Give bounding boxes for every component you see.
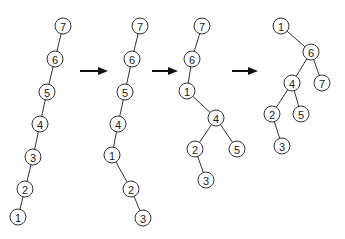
tree-transformation-diagram: 7654321765412376142531647253: [0, 0, 345, 239]
tree-node-5: 5: [117, 84, 133, 100]
node-label: 7: [137, 21, 143, 33]
node-label: 5: [234, 144, 240, 156]
node-label: 4: [115, 119, 121, 131]
arrows-layer: [80, 67, 258, 75]
tree-node-3: 3: [25, 149, 41, 165]
node-label: 3: [203, 175, 209, 187]
node-label: 5: [44, 87, 50, 99]
node-label: 1: [184, 86, 190, 98]
tree-node-5: 5: [39, 84, 55, 100]
tree-node-2: 2: [264, 106, 280, 122]
right-arrow-icon: [232, 67, 258, 75]
tree-node-4: 4: [110, 116, 126, 132]
tree-node-6: 6: [303, 44, 319, 60]
node-label: 4: [289, 78, 295, 90]
node-label: 2: [192, 144, 198, 156]
tree-1: 7654321: [10, 18, 71, 225]
node-label: 5: [298, 109, 304, 121]
node-label: 6: [189, 54, 195, 66]
tree-node-1: 1: [273, 18, 289, 34]
node-label: 2: [22, 184, 28, 196]
node-label: 3: [30, 152, 36, 164]
right-arrow-icon: [80, 67, 108, 75]
node-label: 3: [140, 213, 146, 225]
tree-node-3: 3: [274, 138, 290, 154]
node-label: 3: [279, 141, 285, 153]
tree-node-2: 2: [123, 181, 139, 197]
node-label: 4: [213, 113, 219, 125]
tree-node-2: 2: [187, 141, 203, 157]
tree-node-1: 1: [10, 209, 26, 225]
tree-node-1: 1: [104, 147, 120, 163]
tree-node-5: 5: [293, 106, 309, 122]
node-label: 2: [269, 109, 275, 121]
tree-node-7: 7: [194, 18, 210, 34]
node-label: 5: [122, 87, 128, 99]
node-label: 4: [37, 119, 43, 131]
node-label: 1: [278, 21, 284, 33]
node-label: 6: [52, 54, 58, 66]
tree-node-6: 6: [47, 51, 63, 67]
tree-node-7: 7: [314, 75, 330, 91]
tree-node-2: 2: [17, 181, 33, 197]
edges-layer: [18, 26, 322, 218]
tree-node-5: 5: [229, 141, 245, 157]
tree-node-3: 3: [135, 210, 151, 226]
tree-node-4: 4: [32, 116, 48, 132]
tree-2: 7654123: [104, 18, 151, 226]
node-label: 1: [109, 150, 115, 162]
node-label: 6: [129, 54, 135, 66]
node-label: 6: [308, 47, 314, 59]
node-label: 2: [128, 184, 134, 196]
tree-node-4: 4: [208, 110, 224, 126]
node-label: 7: [60, 21, 66, 33]
tree-node-6: 6: [124, 51, 140, 67]
tree-3: 7614253: [179, 18, 245, 188]
node-label: 7: [319, 78, 325, 90]
tree-node-1: 1: [179, 83, 195, 99]
tree-node-7: 7: [55, 18, 71, 34]
node-label: 1: [15, 212, 21, 224]
tree-node-3: 3: [198, 172, 214, 188]
tree-node-7: 7: [132, 18, 148, 34]
node-label: 7: [199, 21, 205, 33]
nodes-layer: 7654321765412376142531647253: [10, 18, 330, 226]
tree-4: 1647253: [264, 18, 330, 154]
tree-node-6: 6: [184, 51, 200, 67]
tree-node-4: 4: [284, 75, 300, 91]
right-arrow-icon: [152, 67, 178, 75]
